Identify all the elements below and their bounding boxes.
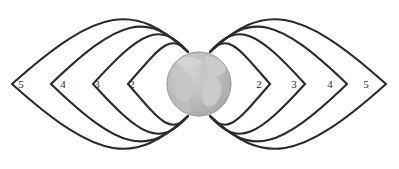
shell-label-right-4: 4 <box>327 79 333 90</box>
magnetic-field-diagram: 54322345 <box>0 0 399 169</box>
shell-label-left-2: 2 <box>129 79 135 90</box>
shell-label-right-5: 5 <box>363 79 369 90</box>
shell-label-left-3: 3 <box>94 79 100 90</box>
field-line-L5-right <box>210 19 386 149</box>
shell-label-left-4: 4 <box>60 79 66 90</box>
shell-label-right-3: 3 <box>291 79 297 90</box>
earth-globe <box>167 52 231 118</box>
shell-label-right-2: 2 <box>256 79 262 90</box>
shell-label-left-5: 5 <box>18 79 24 90</box>
